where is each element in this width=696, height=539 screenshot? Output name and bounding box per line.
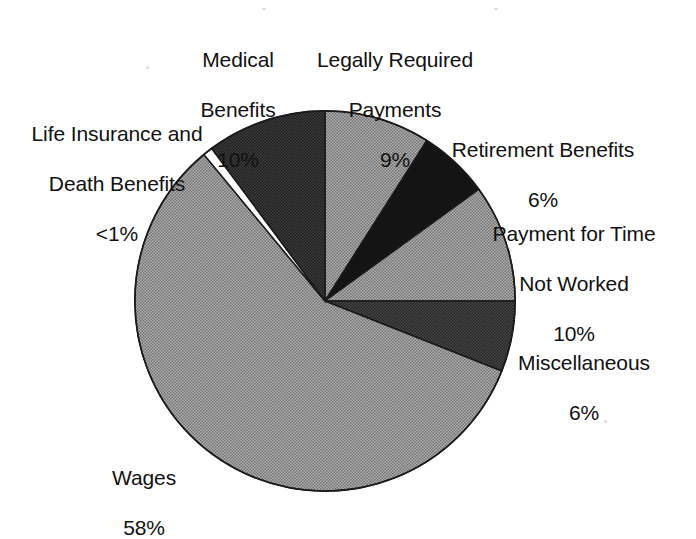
pie-chart-figure: Medical Benefits 10% Legally Required Pa…	[0, 0, 696, 539]
slice-label-misc-line1: Miscellaneous	[488, 350, 680, 375]
slice-label-life-value: <1%	[18, 221, 216, 246]
slice-label-wages-value: 58%	[74, 515, 214, 539]
slice-label-retirement-line1: Retirement Benefits	[418, 137, 668, 162]
slice-label-legally-line1: Legally Required	[300, 47, 490, 72]
slice-label-misc-value: 6%	[488, 400, 680, 425]
slice-label-life-insurance-death-benefits: Life Insurance and Death Benefits <1%	[18, 96, 216, 271]
scan-speckle	[146, 66, 149, 69]
slice-label-medical-line1: Medical	[176, 47, 300, 72]
slice-label-paytime-line2: Not Worked	[468, 271, 680, 296]
slice-label-paytime-line1: Payment for Time	[468, 221, 680, 246]
slice-label-life-line2: Death Benefits	[18, 171, 216, 196]
slice-label-miscellaneous: Miscellaneous 6%	[488, 325, 680, 450]
slice-label-wages: Wages 58%	[74, 440, 214, 539]
scan-speckle	[494, 8, 498, 10]
slice-label-wages-line1: Wages	[74, 465, 214, 490]
scan-speckle	[262, 8, 266, 10]
slice-label-life-line1: Life Insurance and	[18, 121, 216, 146]
